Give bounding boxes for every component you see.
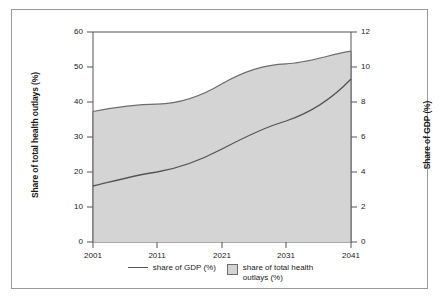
y-axis-right-title: Share of GDP (%) [422, 50, 432, 220]
figure-container: Share of total health outlays (%) Share … [0, 0, 440, 307]
y-axis-left-title: Share of total health outlays (%) [30, 50, 40, 220]
y-axis-right-tick-label: 0 [361, 237, 387, 246]
legend-item-label: share of GDP (%) [153, 263, 216, 273]
legend-line-swatch-icon [128, 263, 148, 272]
y-axis-left-ticks [87, 32, 93, 242]
y-axis-left-tick-label: 40 [57, 97, 83, 106]
x-axis-tick-label: 2001 [73, 251, 113, 260]
legend-box-swatch-icon [227, 264, 238, 275]
y-axis-right-tick-label: 2 [361, 202, 387, 211]
chart-legend: share of GDP (%) share of total health o… [12, 263, 429, 282]
y-axis-right-ticks [351, 32, 357, 242]
y-axis-right-tick-label: 4 [361, 167, 387, 176]
x-axis-ticks [93, 242, 351, 248]
y-axis-left-tick-label: 50 [57, 62, 83, 71]
x-axis-tick-label: 2021 [202, 251, 242, 260]
y-axis-left-tick-label: 20 [57, 167, 83, 176]
series-area-health-outlays [93, 51, 351, 242]
x-axis-tick-label: 2031 [266, 251, 306, 260]
y-axis-left-tick-label: 30 [57, 132, 83, 141]
y-axis-right-tick-label: 10 [361, 62, 387, 71]
x-axis-tick-label: 2041 [331, 251, 371, 260]
x-axis-tick-label: 2011 [137, 251, 177, 260]
y-axis-right-tick-label: 12 [361, 27, 387, 36]
y-axis-left-tick-label: 60 [57, 27, 83, 36]
y-axis-right-tick-label: 8 [361, 97, 387, 106]
chart-plot-area [12, 10, 429, 290]
legend-item-share-of-gdp[interactable]: share of GDP (%) [128, 263, 216, 273]
y-axis-right-tick-label: 6 [361, 132, 387, 141]
y-axis-left-tick-label: 0 [57, 237, 83, 246]
y-axis-left-tick-label: 10 [57, 202, 83, 211]
chart-frame: Share of total health outlays (%) Share … [11, 9, 428, 289]
legend-item-label: share of total health outlays (%) [243, 263, 313, 282]
legend-item-share-of-total-health-outlays[interactable]: share of total health outlays (%) [227, 263, 313, 282]
